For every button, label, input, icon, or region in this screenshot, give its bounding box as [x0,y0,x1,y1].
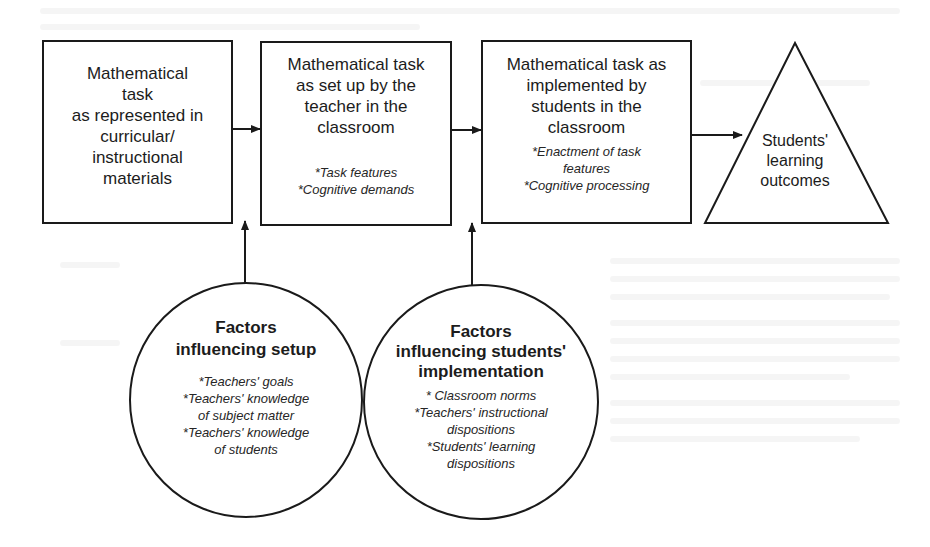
title-line: classroom [288,117,425,138]
circle-implementation-title: Factors influencing students' implementa… [396,322,566,382]
box-curricular: Mathematical task as represented in curr… [43,63,232,223]
list-item: *Enactment of task [524,143,650,160]
list-item: of subject matter [183,407,309,424]
box-implemented-items: *Enactment of task features *Cognitive p… [524,143,650,194]
list-item: *Teachers' goals [183,373,309,390]
title-line: classroom [507,117,667,138]
title-line: materials [72,168,203,189]
title-line: as represented in [72,105,203,126]
title-line: Mathematical task [288,54,425,75]
list-item: *Teachers' knowledge [183,390,309,407]
title-line: instructional [72,147,203,168]
circle-implementation-items: * Classroom norms *Teachers' instruction… [414,387,548,472]
title-line: teacher in the [288,96,425,117]
list-item: * Classroom norms [414,387,548,404]
title-line: implementation [396,362,566,382]
circle-implementation: Factors influencing students' implementa… [370,322,592,502]
box-setup: Mathematical task as set up by the teach… [261,54,451,224]
title-line: Students' [760,131,829,151]
title-line: outcomes [760,171,829,191]
title-line: Factors [176,318,317,338]
title-line: influencing setup [176,340,317,360]
outcome-triangle: Students' learning outcomes [735,131,855,201]
list-item: *Teachers' knowledge [183,424,309,441]
list-item: *Teachers' instructional [414,404,548,421]
list-item: *Students' learning [414,438,548,455]
list-item: dispositions [414,421,548,438]
list-item: dispositions [414,455,548,472]
list-item: *Cognitive processing [524,177,650,194]
box-implemented-title: Mathematical task as implemented by stud… [507,54,667,138]
title-line: implemented by [507,75,667,96]
box-curricular-title: Mathematical task as represented in curr… [72,63,203,189]
title-line: learning [760,151,829,171]
title-line: Mathematical task as [507,54,667,75]
title-line: curricular/ [72,126,203,147]
circle-setup-items: *Teachers' goals *Teachers' knowledge of… [183,373,309,458]
title-line: Mathematical [72,63,203,84]
circle-setup-title: Factors influencing setup [176,318,317,360]
list-item: features [524,160,650,177]
box-setup-title: Mathematical task as set up by the teach… [288,54,425,138]
title-line: Factors [396,322,566,342]
title-line: influencing students' [396,342,566,362]
box-implemented: Mathematical task as implemented by stud… [482,54,691,222]
list-item: of students [183,441,309,458]
outcome-title: Students' learning outcomes [760,131,829,191]
circle-setup: Factors influencing setup *Teachers' goa… [140,318,352,498]
title-line: task [72,84,203,105]
title-line: students in the [507,96,667,117]
list-item: *Task features [298,164,414,181]
list-item: *Cognitive demands [298,181,414,198]
title-line: as set up by the [288,75,425,96]
box-setup-items: *Task features *Cognitive demands [298,164,414,198]
